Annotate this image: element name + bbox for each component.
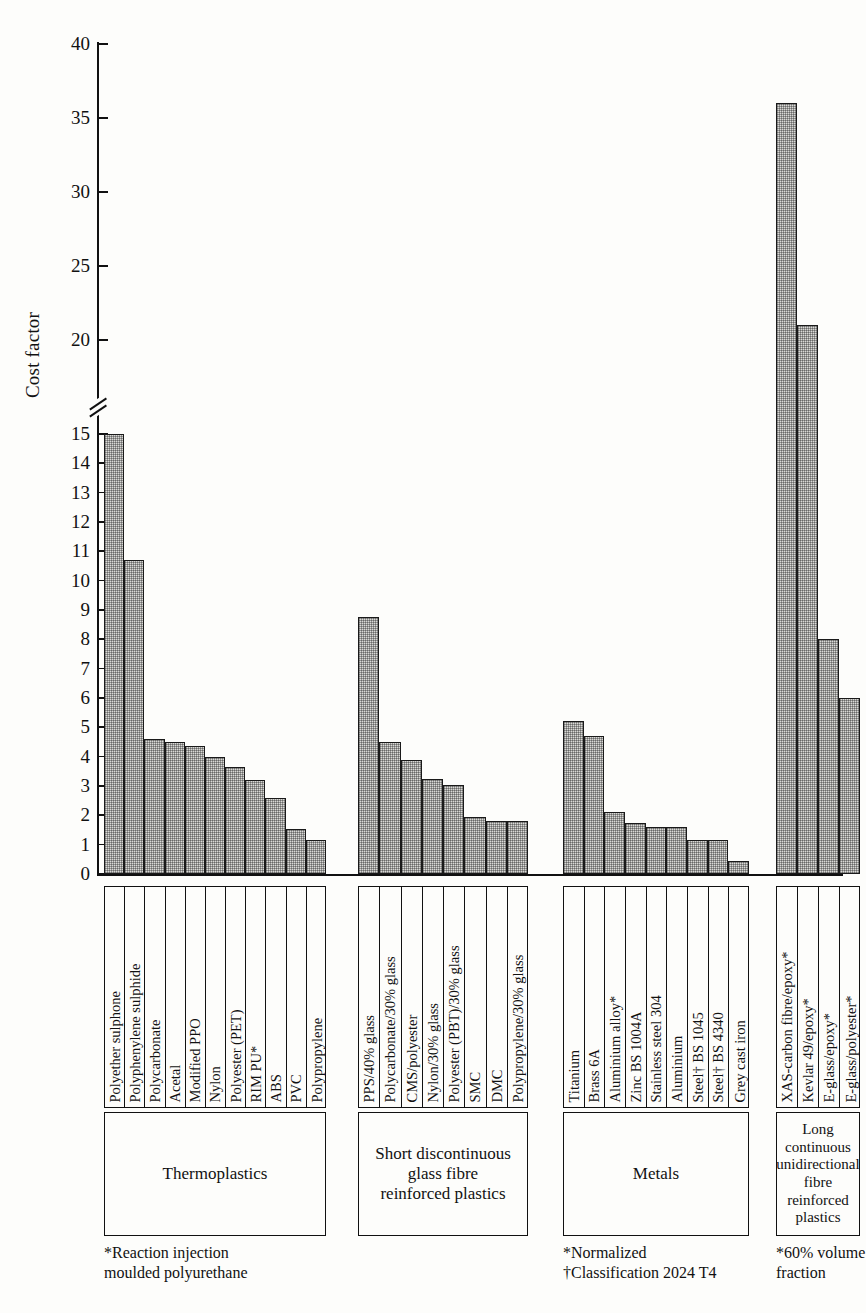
category-label-cell: PVC (287, 887, 307, 1107)
category-label: PVC (289, 1074, 304, 1102)
y-tick-label: 4 (48, 747, 90, 766)
category-label: XAS-carbon fibre/epoxy* (780, 951, 795, 1102)
group-caption: Metals (563, 1112, 749, 1236)
category-label-cell: Aluminium (667, 887, 688, 1107)
y-tick-label: 2 (48, 805, 90, 824)
bar (443, 785, 464, 874)
bar (422, 779, 443, 874)
bar (464, 817, 485, 874)
group-footnote: *Reaction injection moulded polyurethane (104, 1243, 446, 1282)
category-label: Polycarbonate (148, 1019, 163, 1102)
category-label-cell: DMC (487, 887, 508, 1107)
category-label-cell: Aluminium alloy* (605, 887, 626, 1107)
category-label-cell: Polyether sulphone (105, 887, 125, 1107)
category-label: Steel† BS 1045 (691, 1012, 706, 1102)
category-label-cell: SMC (465, 887, 486, 1107)
y-tick-label: 15 (48, 424, 90, 443)
category-label-cell: Acetal (166, 887, 186, 1107)
y-tick-label: 12 (48, 512, 90, 531)
category-label: Polypropylene (310, 1017, 325, 1102)
category-label: DMC (489, 1069, 504, 1102)
category-label: Acetal (168, 1064, 183, 1102)
bar (563, 721, 584, 874)
category-label-cell: Steel† BS 4340 (709, 887, 730, 1107)
y-tick-label: 35 (48, 108, 90, 127)
cost-factor-bar-chart: Cost factor 0123456789101112131415202530… (0, 0, 866, 1313)
category-label: Polyester (PET) (228, 1009, 243, 1102)
category-label: Polyphenylene sulphide (128, 963, 143, 1102)
y-tick-label: 13 (48, 483, 90, 502)
bar (379, 742, 400, 874)
bar (205, 757, 225, 874)
bar (666, 827, 687, 874)
y-tick-label: 9 (48, 600, 90, 619)
y-tick-label: 25 (48, 256, 90, 275)
category-label: Nylon (208, 1066, 223, 1102)
bar (486, 821, 507, 874)
y-axis-line (97, 42, 99, 876)
category-label-cell: Polyphenylene sulphide (125, 887, 145, 1107)
bar (839, 698, 860, 874)
category-label-cell: ABS (266, 887, 286, 1107)
y-tick-label: 10 (48, 571, 90, 590)
category-label-cell: Polycarbonate/30% glass (380, 887, 401, 1107)
bar (728, 861, 749, 874)
bar (104, 434, 124, 874)
category-label-box: TitaniumBrass 6AAluminium alloy*Zinc BS … (563, 886, 749, 1108)
bar (584, 736, 605, 874)
y-tick-label: 6 (48, 688, 90, 707)
category-label: Polypropylene/30% glass (511, 954, 526, 1102)
category-label-cell: Nylon (206, 887, 226, 1107)
y-tick (97, 191, 108, 193)
group-caption: Short discontinuous glass fibre reinforc… (358, 1112, 528, 1236)
bar (625, 823, 646, 874)
category-label: Polyester (PBT)/30% glass (447, 945, 462, 1102)
category-label: Steel† BS 4340 (711, 1012, 726, 1102)
category-label-cell: Modified PPO (186, 887, 206, 1107)
bar (358, 617, 379, 874)
y-tick-label: 40 (48, 34, 90, 53)
category-label-box: XAS-carbon fibre/epoxy*Kevlar 49/epoxy*E… (776, 886, 860, 1108)
category-label-cell: E-glass/epoxy* (819, 887, 840, 1107)
x-axis-baseline (97, 874, 843, 876)
category-label-cell: CMS/polyester (402, 887, 423, 1107)
category-label-cell: Stainless steel 304 (647, 887, 668, 1107)
y-tick-label: 20 (48, 330, 90, 349)
y-tick-label: 30 (48, 182, 90, 201)
y-tick-label: 8 (48, 629, 90, 648)
bar (776, 103, 797, 874)
bar (507, 821, 528, 874)
category-label-cell: Polycarbonate (145, 887, 165, 1107)
y-tick (97, 339, 108, 341)
bar (245, 780, 265, 874)
bar (286, 829, 306, 874)
bar (225, 767, 245, 874)
category-label: ABS (269, 1074, 284, 1102)
category-label-cell: Kevlar 49/epoxy* (798, 887, 819, 1107)
category-label: Aluminium alloy* (608, 995, 623, 1102)
category-label-cell: Zinc BS 1004A (626, 887, 647, 1107)
bar (185, 746, 205, 874)
category-label-box: PPS/40% glassPolycarbonate/30% glassCMS/… (358, 886, 528, 1108)
bar (797, 325, 818, 874)
bar (818, 639, 839, 874)
bar (646, 827, 667, 874)
y-tick-label: 14 (48, 453, 90, 472)
y-tick (97, 117, 108, 119)
category-label-cell: Polypropylene (307, 887, 327, 1107)
bar (165, 742, 185, 874)
category-label: Brass 6A (587, 1048, 602, 1102)
axis-break-icon (86, 399, 110, 415)
y-tick-label: 1 (48, 835, 90, 854)
category-label: Kevlar 49/epoxy* (801, 998, 816, 1102)
bar (265, 798, 285, 874)
y-axis-title: Cost factor (22, 248, 44, 398)
y-tick-label: 7 (48, 659, 90, 678)
category-label-cell: Steel† BS 1045 (688, 887, 709, 1107)
group-footnote: *60% volume fraction (776, 1243, 866, 1282)
category-label-cell: XAS-carbon fibre/epoxy* (777, 887, 798, 1107)
category-label-cell: Polyester (PET) (226, 887, 246, 1107)
bar (687, 840, 708, 874)
y-tick-label: 3 (48, 776, 90, 795)
category-label: Nylon/30% glass (426, 1003, 441, 1102)
